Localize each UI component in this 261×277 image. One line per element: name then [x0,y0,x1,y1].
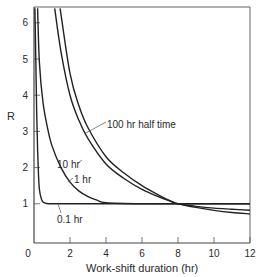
curve-1hr [38,8,250,204]
y-tick-label: 5 [22,54,28,65]
x-ticks: 024681012 [25,237,256,259]
leader-100hr [84,122,106,134]
y-axis-title: R [7,110,15,122]
y-tick-label: 3 [22,126,28,137]
label-100hr: 100 hr half time [107,119,176,130]
curve-0-1hr [35,8,250,204]
label-01hr: 0.1 hr [57,214,83,225]
y-tick-label: 1 [22,198,28,209]
x-tick-label: 0 [25,248,31,259]
x-tick-label: 10 [208,248,220,259]
leader-01hr [58,204,61,213]
x-axis-title: Work-shift duration (hr) [86,262,198,274]
x-tick-label: 2 [67,248,73,259]
y-tick-label: 4 [22,90,28,101]
label-10hr: 10 hr [57,159,80,170]
label-1hr: 1 hr [74,174,92,185]
x-tick-label: 12 [244,248,256,259]
x-tick-label: 6 [139,248,145,259]
x-tick-label: 4 [103,248,109,259]
y-tick-label: 6 [22,17,28,28]
chart: 024681012 123456 100 hr half time 10 hr … [0,0,261,277]
x-tick-label: 8 [175,248,181,259]
y-tick-label: 2 [22,162,28,173]
curves [35,8,250,214]
